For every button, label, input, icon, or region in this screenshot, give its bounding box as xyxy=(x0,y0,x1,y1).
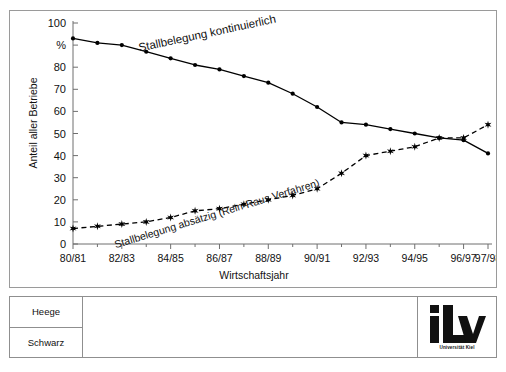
ilv-logo-subtitle: Universität Kiel xyxy=(428,345,486,350)
line-chart-plot: 01020304050607080%10080/8182/8384/8586/8… xyxy=(10,11,496,287)
y-tick-label: 20 xyxy=(54,194,66,206)
series-line-0 xyxy=(73,38,488,153)
data-point xyxy=(120,43,124,47)
series-line-1 xyxy=(73,125,488,229)
y-tick-label: 50 xyxy=(54,128,66,140)
y-tick-label: 70 xyxy=(54,83,66,95)
data-point xyxy=(388,127,392,131)
footer-authors: Heege Schwarz xyxy=(10,297,83,357)
data-point xyxy=(169,56,173,60)
x-tick-label: 80/81 xyxy=(60,252,86,264)
data-point xyxy=(486,151,490,155)
data-point xyxy=(71,36,75,40)
footer-table: Heege Schwarz Universität Kiel xyxy=(9,296,497,358)
x-tick-label: 94/95 xyxy=(402,252,428,264)
data-point xyxy=(217,67,221,71)
data-point xyxy=(485,121,492,129)
screenshot-root: Anteil aller Betriebe 01020304050607080%… xyxy=(0,0,506,372)
y-tick-label: 10 xyxy=(54,216,66,228)
x-tick-label: 96/97 xyxy=(450,252,476,264)
y-tick-label: 80 xyxy=(54,61,66,73)
y-tick-label: 30 xyxy=(54,172,66,184)
data-point xyxy=(411,143,418,151)
y-tick-label: 40 xyxy=(54,150,66,162)
x-axis-title: Wirtschaftsjahr xyxy=(10,269,498,281)
series-annotation-batch: Stallbelegung absätzig (Rein-Raus Verfah… xyxy=(113,176,321,250)
data-point xyxy=(339,120,343,124)
x-tick-label: 92/93 xyxy=(353,252,379,264)
data-point xyxy=(364,123,368,127)
data-point xyxy=(266,81,270,85)
ilv-logo: Universität Kiel xyxy=(428,304,486,350)
series-annotation-continuous: Stallbelegung kontinuierlich xyxy=(137,13,276,54)
x-tick-label: 90/91 xyxy=(304,252,330,264)
y-tick-label: % xyxy=(56,39,66,51)
x-tick-label: 82/83 xyxy=(109,252,135,264)
y-tick-label: 60 xyxy=(54,105,66,117)
ilv-logo-mark xyxy=(428,304,486,344)
chart-container: Anteil aller Betriebe 01020304050607080%… xyxy=(9,10,497,288)
x-tick-label: 86/87 xyxy=(206,252,232,264)
data-point xyxy=(193,63,197,67)
x-tick-label: 97/98 xyxy=(475,252,496,264)
y-tick-label: 100 xyxy=(48,17,66,29)
footer-author-top: Heege xyxy=(10,297,82,328)
footer-note-cell xyxy=(83,297,418,357)
y-tick-label: 0 xyxy=(60,238,66,250)
data-point xyxy=(95,41,99,45)
data-point xyxy=(413,131,417,135)
x-tick-label: 88/89 xyxy=(255,252,281,264)
footer-logo-cell: Universität Kiel xyxy=(418,297,496,357)
data-point xyxy=(315,105,319,109)
data-point xyxy=(291,92,295,96)
data-point xyxy=(242,74,246,78)
footer-author-bottom: Schwarz xyxy=(10,328,82,358)
x-tick-label: 84/85 xyxy=(158,252,184,264)
data-point xyxy=(338,169,345,177)
